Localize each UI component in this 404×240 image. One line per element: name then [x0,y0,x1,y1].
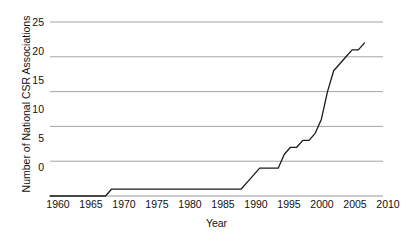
x-axis-title: Year [50,217,383,229]
gridlines [50,22,383,196]
data-series-line [50,43,365,196]
